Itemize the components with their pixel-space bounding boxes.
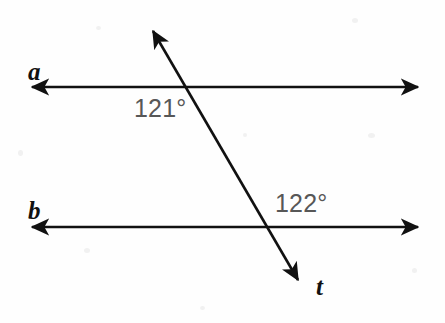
angle-label-121: 121°	[134, 96, 187, 121]
label-line-a: a	[28, 59, 41, 84]
label-line-b: b	[28, 198, 41, 223]
diagram-canvas	[0, 0, 445, 323]
geometry-figure: a b t 121° 122°	[0, 0, 445, 323]
angle-label-122: 122°	[275, 191, 328, 216]
label-line-t: t	[316, 274, 323, 299]
line-t-transversal	[153, 31, 298, 280]
